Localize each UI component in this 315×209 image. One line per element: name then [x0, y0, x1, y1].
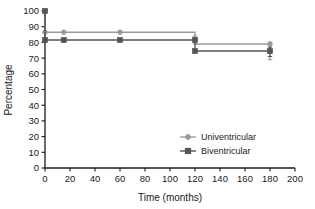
y-tick-label: 0 [34, 162, 39, 173]
y-tick-label: 100 [23, 5, 39, 16]
y-tick-label: 40 [28, 100, 39, 111]
y-tick-label: 60 [28, 68, 39, 79]
y-tick-label: 90 [28, 21, 39, 32]
data-point-marker [267, 48, 272, 53]
data-point-marker [268, 42, 273, 47]
data-point-marker [42, 37, 47, 42]
chart-svg: 100 90 80 70 60 50 40 30 20 10 0 [0, 0, 315, 209]
y-tick-label: 70 [28, 53, 39, 64]
data-point-marker [61, 37, 66, 42]
data-point-marker [118, 30, 123, 35]
legend-marker-square-icon [185, 148, 190, 153]
y-tick-label: 50 [28, 84, 39, 95]
x-axis-title: Time (months) [138, 192, 202, 203]
data-point-marker [192, 37, 197, 42]
y-axis-title: Percentage [3, 64, 14, 116]
data-point-marker [117, 37, 122, 42]
x-tick-label: 160 [237, 173, 253, 184]
data-point-marker [192, 48, 197, 53]
x-tick-label: 100 [162, 173, 178, 184]
x-tick-label: 40 [90, 173, 101, 184]
y-tick-label: 30 [28, 115, 39, 126]
y-tick-label: 10 [28, 147, 39, 158]
data-point-marker [42, 8, 47, 13]
y-tick-label: 80 [28, 37, 39, 48]
x-tick-label: 120 [187, 173, 203, 184]
x-tick-label: 20 [65, 173, 76, 184]
legend-marker-circle-icon [186, 135, 191, 140]
x-tick-label: 140 [212, 173, 228, 184]
y-tick-label: 20 [28, 131, 39, 142]
survival-chart: 100 90 80 70 60 50 40 30 20 10 0 [0, 0, 315, 209]
x-tick-label: 60 [115, 173, 126, 184]
x-tick-label: 180 [262, 173, 278, 184]
data-point-marker [61, 30, 66, 35]
x-tick-label: 200 [287, 173, 303, 184]
x-tick-label: 80 [140, 173, 151, 184]
legend-label: Univentricular [201, 132, 256, 142]
legend-label: Biventricular [201, 146, 251, 156]
x-tick-label: 0 [42, 173, 47, 184]
